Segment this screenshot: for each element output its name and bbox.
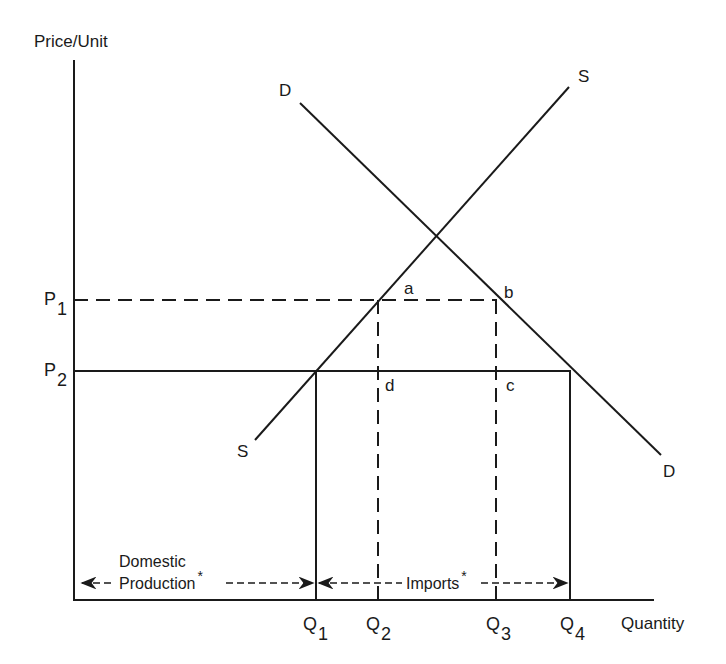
point-a-label: a bbox=[404, 279, 414, 298]
domestic-label-line1: Domestic bbox=[119, 553, 186, 570]
point-b-label: b bbox=[504, 283, 513, 302]
imports-label: Imports* bbox=[406, 568, 467, 592]
demand-label-bottom: D bbox=[663, 462, 675, 481]
p1-label: P1 bbox=[44, 289, 67, 319]
q1-label: Q1 bbox=[303, 614, 328, 644]
tariff-diagram: Price/Unit Quantity P1 P2 Q1 Q2 Q3 Q4 S … bbox=[0, 0, 726, 664]
point-d-label: d bbox=[385, 376, 394, 395]
point-c-label: c bbox=[506, 376, 515, 395]
q2-label: Q2 bbox=[366, 614, 391, 644]
demand-curve bbox=[300, 103, 661, 455]
x-axis-label: Quantity bbox=[621, 614, 685, 633]
q4-label: Q4 bbox=[560, 614, 585, 644]
p2-label: P2 bbox=[44, 360, 67, 390]
supply-label-bottom: S bbox=[237, 442, 248, 461]
demand-label-top: D bbox=[279, 81, 291, 100]
supply-curve bbox=[255, 87, 569, 440]
q3-label: Q3 bbox=[486, 614, 511, 644]
domestic-label-line2: Production* bbox=[119, 568, 204, 592]
y-axis-label: Price/Unit bbox=[34, 32, 108, 51]
supply-label-top: S bbox=[578, 67, 589, 86]
